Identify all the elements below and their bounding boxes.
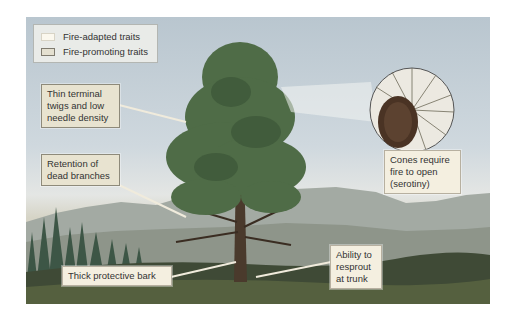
label-twigs: Thin terminal twigs and low needle densi… <box>41 84 120 128</box>
label-resprout: Ability to resprout at trunk <box>330 245 382 289</box>
illustration-frame: Fire-adapted traits Fire-promoting trait… <box>26 17 490 304</box>
legend-item-fire-adapted: Fire-adapted traits <box>41 31 140 42</box>
legend-item-fire-promoting: Fire-promoting traits <box>41 46 148 57</box>
cone-inset-icon <box>370 68 454 152</box>
legend: Fire-adapted traits Fire-promoting trait… <box>33 24 158 63</box>
fire-promoting-swatch <box>41 48 55 56</box>
twigs-leader-line <box>119 105 186 122</box>
fire-adapted-swatch <box>41 33 55 41</box>
cone-callout-beam <box>281 82 376 122</box>
legend-label: Fire-promoting traits <box>63 46 148 57</box>
legend-label: Fire-adapted traits <box>63 31 140 42</box>
label-cones: Cones require fire to open (serotiny) <box>384 150 461 194</box>
label-bark: Thick protective bark <box>62 266 172 286</box>
label-dead-branches: Retention of dead branches <box>41 154 120 186</box>
